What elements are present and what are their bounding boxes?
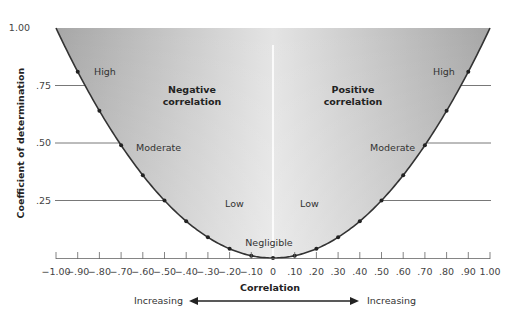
correlation-chart: 1.00 .75 .50 .25 Coefficient of determin…	[0, 0, 515, 319]
x-tick-label: −.50	[153, 266, 176, 277]
increasing-right-label: Increasing	[367, 295, 416, 306]
y-axis-title: Coefficient of determination	[15, 67, 26, 218]
positive-correlation-title-line1: Positive	[332, 84, 375, 95]
x-tick-label: −.20	[218, 266, 241, 277]
moderate-left-label: Moderate	[136, 142, 181, 153]
data-point	[380, 199, 384, 203]
negligible-label: Negligible	[245, 237, 293, 248]
arrow-left-icon	[189, 297, 198, 305]
moderate-right-label: Moderate	[370, 142, 415, 153]
data-point	[336, 235, 340, 239]
positive-correlation-title-line2: correlation	[324, 96, 383, 107]
x-tick-label: .50	[374, 266, 389, 277]
x-tick-label: −.80	[88, 266, 111, 277]
x-axis-title: Correlation	[240, 282, 300, 293]
data-point	[228, 247, 232, 251]
x-tick-label: .90	[461, 266, 476, 277]
data-point	[119, 143, 123, 147]
data-point	[466, 70, 470, 74]
x-tick-label: .30	[331, 266, 346, 277]
arrow-right-icon	[350, 297, 359, 305]
x-axis-tick-labels: −1.00−.90−.80−.70−.60−.50−.40−.30−.20−.1…	[41, 266, 500, 277]
data-point	[358, 219, 362, 223]
data-point	[206, 235, 210, 239]
x-tick-label: .80	[439, 266, 454, 277]
x-tick-label: −.10	[240, 266, 263, 277]
data-point	[184, 219, 188, 223]
low-left-label: Low	[225, 198, 244, 209]
y-tick-1-00: 1.00	[9, 22, 30, 33]
data-point	[314, 247, 318, 251]
x-tick-label: .70	[417, 266, 432, 277]
x-tick-label: .60	[396, 266, 411, 277]
data-point	[423, 143, 427, 147]
data-point	[271, 256, 275, 260]
negative-correlation-title-line2: correlation	[163, 96, 222, 107]
data-point	[141, 173, 145, 177]
data-point	[97, 109, 101, 113]
x-tick-label: −.90	[66, 266, 89, 277]
high-left-label: High	[94, 66, 116, 77]
high-right-label: High	[433, 66, 455, 77]
y-tick-0-75: .75	[36, 80, 51, 91]
x-tick-label: −.40	[175, 266, 198, 277]
x-tick-label: −.60	[131, 266, 154, 277]
x-tick-label: 0	[270, 266, 276, 277]
x-tick-label: 1.00	[479, 266, 500, 277]
x-tick-label: −.70	[110, 266, 133, 277]
x-tick-label: .10	[287, 266, 302, 277]
negative-correlation-title-line1: Negative	[168, 84, 216, 95]
x-tick-label: −.30	[196, 266, 219, 277]
x-tick-label: .20	[309, 266, 324, 277]
y-tick-0-25: .25	[36, 195, 51, 206]
x-tick-label: .40	[352, 266, 367, 277]
data-point	[445, 109, 449, 113]
low-right-label: Low	[300, 198, 319, 209]
y-tick-0-50: .50	[36, 137, 51, 148]
data-point	[163, 199, 167, 203]
data-point	[401, 173, 405, 177]
increasing-left-label: Increasing	[134, 295, 183, 306]
data-point	[76, 70, 80, 74]
